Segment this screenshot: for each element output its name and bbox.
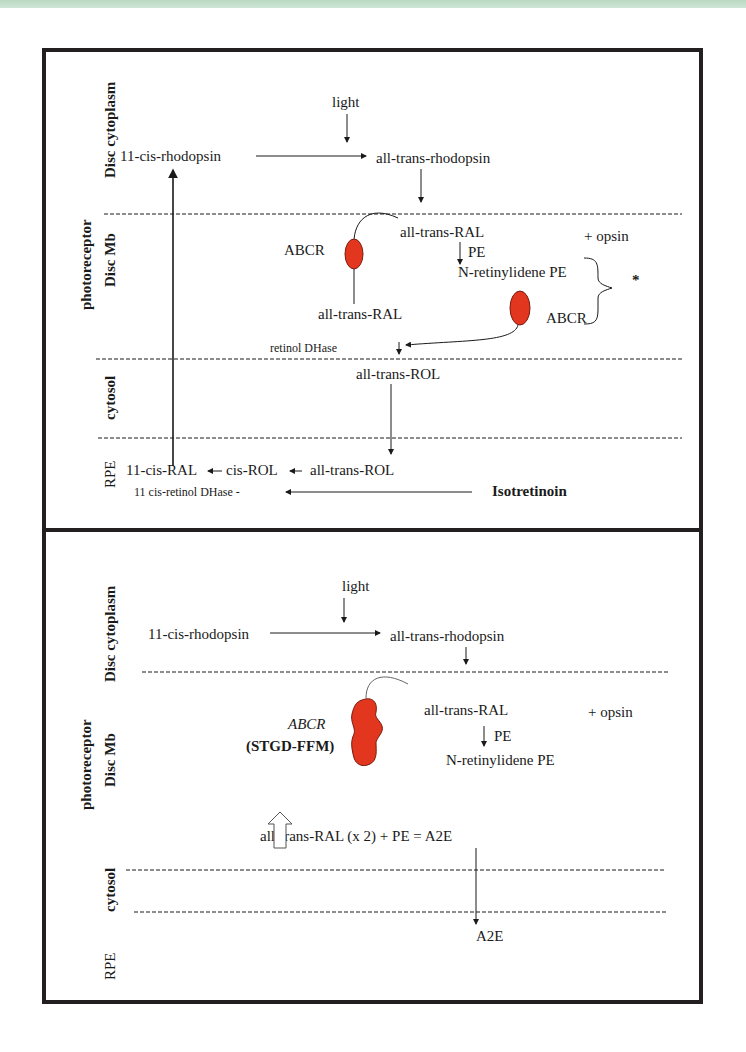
panel-b-arrows bbox=[46, 532, 699, 1000]
increase-arrow-icon bbox=[268, 812, 292, 848]
mutant-abcr-protein-icon bbox=[352, 699, 383, 766]
panel-a-arrows bbox=[46, 52, 699, 528]
header-band bbox=[0, 0, 746, 8]
panel-stgd-visual-cycle: Disc cytoplasm photoreceptor Disc Mb cyt… bbox=[42, 528, 703, 1004]
abcr-protein-icon bbox=[510, 291, 530, 325]
abcr-protein-icon bbox=[345, 239, 363, 269]
panel-normal-visual-cycle: Disc cytoplasm photoreceptor Disc Mb cyt… bbox=[42, 48, 703, 531]
